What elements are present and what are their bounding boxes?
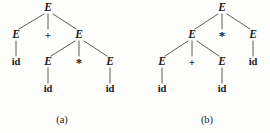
- a-l1-plus: +: [45, 30, 51, 41]
- a-l3-id-right: id: [106, 84, 114, 95]
- b-edge-root-to-E-right: [227, 14, 250, 29]
- b-l3-id-mid: id: [218, 84, 226, 95]
- a-edge-Eright-to-E2: [84, 41, 107, 56]
- a-edge-root-to-E-right: [53, 14, 76, 29]
- b-l1-E-right: E: [249, 29, 257, 41]
- a-root-E: E: [44, 2, 52, 14]
- caption-b: (b): [201, 114, 213, 125]
- b-l2-id-right: id: [249, 57, 257, 68]
- parse-tree-figure: EE+EidE*Eidid (a) EE*EE+Eididid (b): [0, 0, 270, 133]
- a-l3-id-mid: id: [44, 84, 52, 95]
- b-edge-root-to-E-left: [195, 14, 218, 29]
- b-l2-plus: +: [189, 57, 195, 68]
- b-l3-id-left: id: [158, 84, 166, 95]
- b-l2-E-right: E: [218, 56, 226, 68]
- b-edge-Eleft-to-E: [165, 41, 188, 56]
- b-edge-Eleft-to-E2: [197, 41, 219, 56]
- a-edge-root-to-E-left: [19, 14, 44, 29]
- parse-tree-a: EE+EidE*Eidid (a): [0, 0, 135, 133]
- a-l2-star: *: [76, 56, 83, 69]
- b-l1-star: *: [219, 29, 226, 42]
- b-root-E: E: [218, 2, 226, 14]
- caption-a: (a): [56, 114, 68, 125]
- a-edge-Eright-to-E: [51, 41, 75, 56]
- a-l1-E-left: E: [12, 29, 20, 41]
- parse-tree-b: EE*EE+Eididid (b): [135, 0, 270, 133]
- a-l2-E-right: E: [106, 56, 114, 68]
- a-l1-E-right: E: [75, 29, 83, 41]
- b-l2-E-left: E: [158, 56, 166, 68]
- a-l2-id-left: id: [12, 57, 20, 68]
- a-l2-E-left: E: [44, 56, 52, 68]
- b-l1-E-left: E: [188, 29, 196, 41]
